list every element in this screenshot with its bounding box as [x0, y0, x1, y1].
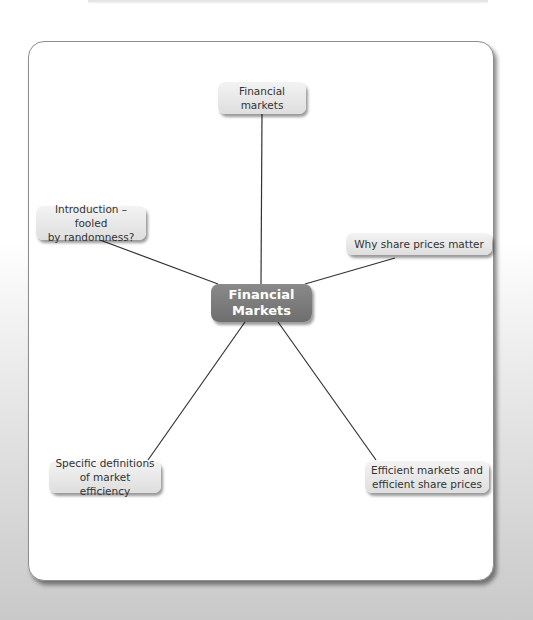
node-introduction[interactable]: Introduction – fooled by randomness? — [36, 206, 146, 240]
node-label: Introduction – fooled — [42, 202, 140, 230]
node-label: Why share prices matter — [354, 237, 484, 251]
node-label: efficient share prices — [371, 477, 483, 491]
node-specific-definitions[interactable]: Specific definitions of market efficienc… — [49, 461, 161, 493]
node-center-financial-markets[interactable]: Financial Markets — [211, 284, 312, 322]
node-label: Financial — [239, 84, 285, 98]
node-label: Specific definitions — [55, 456, 155, 470]
node-why-share-prices-matter[interactable]: Why share prices matter — [346, 233, 492, 255]
center-label: Financial — [228, 287, 294, 303]
center-label: Markets — [228, 303, 294, 319]
top-divider — [88, 0, 488, 2]
node-financial-markets-topic[interactable]: Financial markets — [218, 82, 306, 114]
node-label: Efficient markets and — [371, 463, 483, 477]
node-label: by randomness? — [42, 230, 140, 244]
node-label: of market efficiency — [55, 470, 155, 498]
node-label: markets — [239, 98, 285, 112]
node-efficient-markets[interactable]: Efficient markets and efficient share pr… — [365, 461, 489, 493]
